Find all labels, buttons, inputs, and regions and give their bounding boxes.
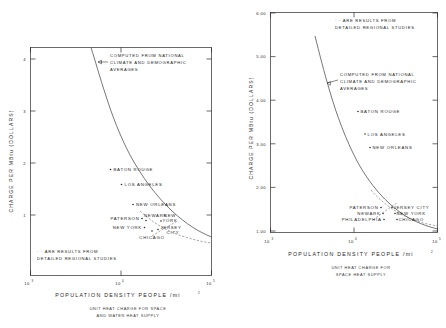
right-ytick-label-0: 6.00 bbox=[256, 11, 266, 16]
left-caption-line1: UNIT HEAT CHARGE FOR SPACE bbox=[90, 306, 167, 311]
left-plot-frame bbox=[31, 48, 212, 276]
left-caption-line2: AND WATER HEAT SUPPLY bbox=[97, 313, 160, 318]
right-city-label-los-angeles: LOS ANGELES bbox=[368, 132, 406, 137]
right-ytick-label-2: 4.00 bbox=[256, 98, 266, 103]
left-city-label-philadelphia: NEW YORK bbox=[113, 225, 142, 230]
left-note-line1: · · ARE RESULTS FROM bbox=[37, 249, 98, 254]
right-y-axis-title: CHARGE PER MBtu (DOLLARS) bbox=[248, 77, 254, 180]
left-callout-leader bbox=[98, 60, 108, 64]
svg-text:10: 10 bbox=[348, 239, 354, 244]
left-city-label-new-orleans: NEW ORLEANS bbox=[136, 202, 176, 207]
left-chart-panel: 4 3 2 1 10 3 10 4 10 5 COMPUTED FROM NAT… bbox=[0, 0, 223, 328]
left-note-line2: DETAILED REGIONAL STUDIES bbox=[37, 256, 117, 261]
right-caption-line2: SPACE HEAT SUPPLY bbox=[336, 272, 386, 277]
right-city-label-new-york: NEW YORK bbox=[397, 211, 426, 216]
right-x-ticks bbox=[271, 13, 438, 233]
svg-text:10: 10 bbox=[264, 239, 270, 244]
left-chart-svg: 4 3 2 1 10 3 10 4 10 5 COMPUTED FROM NAT… bbox=[0, 0, 223, 328]
left-x-ticks bbox=[31, 48, 212, 276]
left-x-axis-title: POPULATION DENSITY PEOPLE /mi 2 bbox=[55, 291, 200, 299]
right-city-label-paterson: PATERSON bbox=[350, 205, 379, 210]
right-city-label-chicago: CHICAGO bbox=[399, 217, 424, 222]
right-data-points bbox=[357, 111, 398, 221]
svg-text:4: 4 bbox=[122, 279, 124, 283]
left-ytick-label-1: 3 bbox=[23, 109, 26, 114]
right-ytick-label-4: 2.00 bbox=[256, 185, 266, 190]
left-national-curve bbox=[91, 48, 212, 238]
left-ytick-label-2: 2 bbox=[23, 161, 26, 166]
svg-text:POPULATION DENSITY PEOPLE /mi: POPULATION DENSITY PEOPLE /mi bbox=[288, 251, 414, 257]
right-callout-line3: AVERAGES bbox=[340, 86, 368, 91]
svg-text:10: 10 bbox=[24, 281, 30, 286]
right-xtick-label-2: 10 5 bbox=[432, 237, 441, 244]
left-data-points bbox=[110, 169, 162, 232]
right-callout-line2: CLIMATE AND DEMOGRAPHIC bbox=[340, 79, 417, 84]
right-x-axis-title: POPULATION DENSITY PEOPLE /mi 2 bbox=[288, 250, 433, 258]
right-y-ticks bbox=[271, 13, 438, 231]
svg-text:3: 3 bbox=[32, 279, 34, 283]
svg-text:2: 2 bbox=[431, 250, 433, 254]
right-chart-panel: 6.00 5.00 4.00 3.00 2.00 1.00 10 3 10 4 … bbox=[223, 0, 446, 328]
left-city-label-city: CITY bbox=[167, 230, 180, 235]
right-plot-frame bbox=[271, 13, 438, 233]
right-callout-line1: COMPUTED FROM NATIONAL bbox=[340, 72, 415, 77]
right-note-line2: DETAILED REGIONAL STUDIES bbox=[335, 25, 415, 30]
svg-text:5: 5 bbox=[439, 237, 441, 241]
left-callout-line2: CLIMATE AND DEMOGRAPHIC bbox=[110, 60, 187, 65]
svg-text:5: 5 bbox=[213, 279, 215, 283]
left-city-label-york: YORK bbox=[162, 218, 177, 223]
right-ytick-label-1: 5.00 bbox=[256, 54, 266, 59]
right-caption-line1: UNIT HEAT CHARGE FOR bbox=[331, 265, 390, 270]
left-city-label-paterson: PATERSON bbox=[111, 216, 140, 221]
right-city-label-newark: NEWARK bbox=[357, 211, 380, 216]
right-ytick-label-5: 1.00 bbox=[256, 229, 266, 234]
right-xtick-label-1: 10 4 bbox=[348, 237, 357, 244]
svg-text:10: 10 bbox=[115, 281, 121, 286]
left-city-label-chicago: CHICAGO bbox=[139, 235, 164, 240]
right-city-label-jersey-city: JERSEY CITY bbox=[394, 205, 430, 210]
right-city-label-philadelphia: PHILADELPHIA bbox=[342, 217, 382, 222]
right-chart-svg: 6.00 5.00 4.00 3.00 2.00 1.00 10 3 10 4 … bbox=[223, 0, 446, 328]
left-ytick-label-0: 4 bbox=[23, 57, 26, 62]
left-callout-line3: AVERAGES bbox=[110, 67, 138, 72]
left-xtick-label-0: 10 3 bbox=[24, 279, 33, 286]
right-city-label-new-orleans: NEW ORLEANS bbox=[373, 145, 413, 150]
svg-text:POPULATION DENSITY PEOPLE /mi: POPULATION DENSITY PEOPLE /mi bbox=[55, 292, 181, 298]
left-xtick-label-2: 10 5 bbox=[206, 279, 215, 286]
left-callout-line1: COMPUTED FROM NATIONAL bbox=[110, 53, 185, 58]
left-city-label-baton-rouge: BATON ROUGE bbox=[114, 167, 154, 172]
svg-text:2: 2 bbox=[198, 291, 200, 295]
right-callout-leader bbox=[327, 80, 338, 85]
right-note-line1: · · ARE RESULTS FROM bbox=[335, 18, 396, 23]
right-ytick-label-3: 3.00 bbox=[256, 142, 266, 147]
left-city-label-los-angeles: LOS ANGELES bbox=[125, 182, 163, 187]
right-xtick-label-0: 10 3 bbox=[264, 237, 273, 244]
svg-text:3: 3 bbox=[272, 237, 274, 241]
right-city-label-baton-rouge: BATON ROUGE bbox=[361, 109, 401, 114]
left-y-axis-title: CHARGE PER MBtu (DOLLARS) bbox=[8, 110, 14, 213]
left-xtick-label-1: 10 4 bbox=[115, 279, 124, 286]
left-ytick-label-3: 1 bbox=[23, 213, 26, 218]
svg-text:10: 10 bbox=[432, 239, 438, 244]
svg-text:10: 10 bbox=[206, 281, 212, 286]
svg-text:4: 4 bbox=[355, 237, 357, 241]
